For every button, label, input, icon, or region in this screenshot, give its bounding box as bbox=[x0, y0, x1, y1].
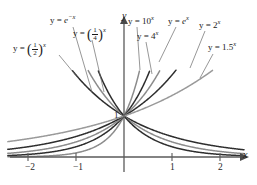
curve-label-onefive: y = 1.5x bbox=[208, 41, 236, 52]
leader-line-e_pos bbox=[159, 27, 176, 62]
curve-label-two: y = 2x bbox=[199, 19, 220, 30]
curve-label-four: y = 4x bbox=[137, 30, 158, 41]
curve-label-ten: y = 10x bbox=[128, 15, 154, 26]
y-axis-label: y bbox=[122, 11, 126, 21]
leader-line-half bbox=[59, 55, 78, 78]
curve-label-e-pos: y = ex bbox=[168, 15, 189, 26]
y-unit-marker: 1 bbox=[114, 111, 119, 120]
x-tick-label-neg1: −1 bbox=[73, 163, 83, 173]
curve-label-e-neg: y = e−x bbox=[50, 14, 75, 25]
x-tick-label-neg2: −2 bbox=[25, 163, 35, 173]
curves-group bbox=[8, 70, 244, 157]
leader-line-four bbox=[146, 42, 152, 74]
curve-label-half: y = (12)x bbox=[13, 42, 46, 57]
x-tick-label-pos1: 1 bbox=[170, 163, 175, 173]
leader-line-two bbox=[190, 31, 205, 68]
curve-label-quarter: y = (14)x bbox=[73, 27, 106, 42]
curve-e_neg bbox=[88, 71, 244, 154]
exponential-functions-figure: y = (12)x y = e−x y = (14)x y = 10x y = … bbox=[0, 0, 257, 185]
leader-line-quarter bbox=[92, 40, 104, 92]
x-tick-label-pos2: 2 bbox=[218, 163, 223, 173]
x-axis-label: x bbox=[243, 150, 247, 160]
